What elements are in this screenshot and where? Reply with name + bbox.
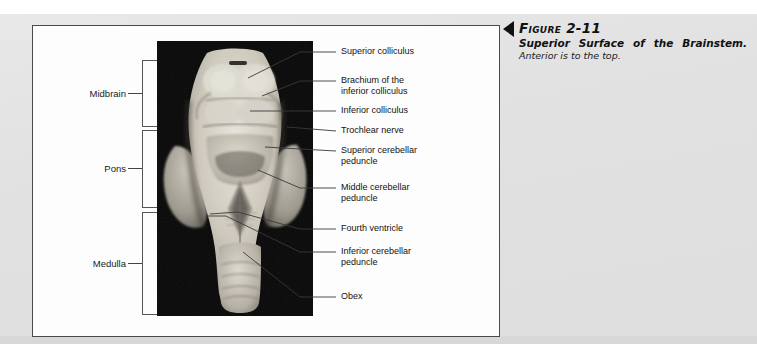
- callout-line: Middle cerebellar: [341, 182, 410, 193]
- callout-line: Inferior cerebellar: [341, 246, 411, 257]
- bracket-tick-midbrain: [128, 93, 142, 94]
- callout-line: Superior cerebellar: [341, 145, 417, 156]
- region-label-midbrain: Midbrain: [48, 88, 126, 99]
- figure-title: Superior Surface of the Brainstem.: [519, 37, 747, 50]
- callout-line: Obex: [341, 291, 363, 302]
- callout-line: Fourth ventricle: [341, 223, 403, 234]
- page-bottom-edge: [0, 336, 757, 344]
- brainstem-photograph: [157, 41, 313, 316]
- bracket-medulla: [142, 212, 157, 315]
- brainstem-specimen-image: [157, 41, 313, 316]
- callout-obex: Obex: [341, 291, 363, 302]
- bracket-tick-medulla: [128, 263, 142, 264]
- bracket-tick-pons: [128, 168, 142, 169]
- callout-inferior-colliculus: Inferior colliculus: [341, 105, 408, 116]
- left-triangle-icon: [503, 21, 514, 37]
- callout-line: Superior colliculus: [341, 46, 414, 57]
- callout-line: inferior colliculus: [341, 86, 408, 97]
- callout-line: peduncle: [341, 257, 411, 268]
- callout-line: Brachium of the: [341, 75, 408, 86]
- callout-middle-cerebellar-peduncle: Middle cerebellar peduncle: [341, 182, 410, 203]
- figure-caption: Figure 2-11 Superior Surface of the Brai…: [519, 20, 747, 62]
- callout-line: Trochlear nerve: [341, 125, 404, 136]
- callout-fourth-ventricle: Fourth ventricle: [341, 223, 403, 234]
- region-label-pons: Pons: [48, 163, 126, 174]
- figure-subtitle: Anterior is to the top.: [519, 50, 747, 62]
- bracket-pons: [142, 130, 157, 208]
- figure-number: Figure 2-11: [519, 20, 747, 36]
- region-label-medulla: Medulla: [48, 258, 126, 269]
- callout-line: Inferior colliculus: [341, 105, 408, 116]
- callout-line: peduncle: [341, 193, 410, 204]
- callout-superior-colliculus: Superior colliculus: [341, 46, 414, 57]
- callout-brachium-inferior-colliculus: Brachium of the inferior colliculus: [341, 75, 408, 96]
- callout-inferior-cerebellar-peduncle: Inferior cerebellar peduncle: [341, 246, 411, 267]
- callout-superior-cerebellar-peduncle: Superior cerebellar peduncle: [341, 145, 417, 166]
- bracket-midbrain: [142, 60, 157, 127]
- callout-line: peduncle: [341, 156, 417, 167]
- figure-page: Midbrain Pons Medulla: [0, 0, 757, 351]
- callout-trochlear-nerve: Trochlear nerve: [341, 125, 404, 136]
